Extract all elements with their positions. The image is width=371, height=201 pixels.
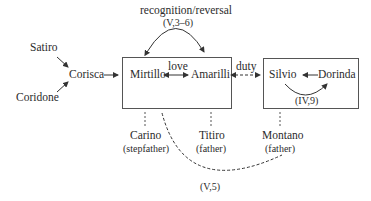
role-carino: (stepfather) xyxy=(123,144,169,154)
node-carino: Carino xyxy=(130,130,161,142)
node-coridone: Coridone xyxy=(16,92,59,104)
node-satiro: Satiro xyxy=(30,42,57,54)
label-recognition-ref: (V,3–6) xyxy=(163,18,193,28)
role-montano: (father) xyxy=(265,144,295,154)
label-silvio-dorinda-ref: (IV,9) xyxy=(295,96,318,106)
node-silvio: Silvio xyxy=(269,69,296,81)
node-corisca: Corisca xyxy=(69,69,104,81)
label-love: love xyxy=(168,61,188,73)
node-titiro: Titiro xyxy=(199,130,225,142)
label-mirtillo-montano-ref: (V,5) xyxy=(200,182,220,192)
node-dorinda: Dorinda xyxy=(318,69,356,81)
node-montano: Montano xyxy=(262,130,304,142)
node-amarilli: Amarilli xyxy=(191,69,230,81)
role-titiro: (father) xyxy=(196,144,226,154)
label-recognition: recognition/reversal xyxy=(140,5,232,17)
node-mirtillo: Mirtillo xyxy=(130,69,166,81)
label-duty: duty xyxy=(236,61,256,73)
